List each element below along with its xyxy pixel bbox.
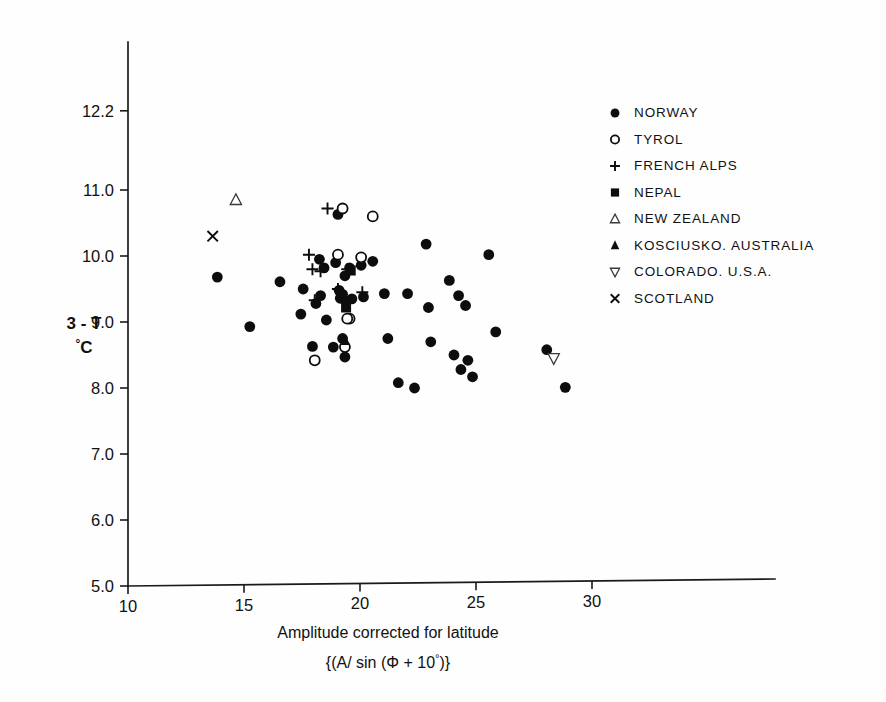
x-tick-label: 30 [583, 592, 601, 610]
x-axis-subtitle: {(A/ sin (Φ + 10°)} [326, 652, 451, 671]
legend-item[interactable]: NEW ZEALAND [610, 211, 741, 226]
legend-label: FRENCH ALPS [634, 158, 738, 173]
open-triangle-marker [230, 194, 241, 205]
open-circle-marker [342, 314, 352, 324]
open-circle-marker [368, 211, 378, 221]
plus-marker [610, 161, 620, 171]
plus-marker [322, 202, 334, 214]
filled-circle-marker [298, 284, 309, 295]
open-circle-marker [310, 355, 320, 365]
scatter-plot-figure: 1015202530 5.06.07.08.09.010.011.012.2 N… [0, 0, 886, 702]
open-triangle-marker [610, 214, 619, 223]
x-axis-title: Amplitude corrected for latitude [277, 624, 499, 641]
series-colorado-u-s-a [548, 354, 559, 365]
legend-item[interactable]: FRENCH ALPS [610, 158, 738, 173]
filled-circle-marker [307, 341, 318, 352]
filled-circle-marker [490, 327, 501, 338]
open-dtriangle-marker [610, 268, 619, 277]
open-circle-marker [356, 252, 366, 262]
open-circle-marker [338, 203, 348, 213]
filled-circle-marker [421, 239, 432, 250]
filled-circle-marker [453, 290, 464, 301]
filled-circle-marker [295, 309, 306, 320]
legend-label: SCOTLAND [634, 291, 715, 306]
filled-circle-marker [483, 249, 494, 260]
plus-marker [303, 249, 315, 261]
open-dtriangle-marker [548, 354, 559, 365]
series-norway [212, 209, 571, 393]
x-tick-label: 20 [351, 594, 369, 612]
filled-square-marker [346, 266, 356, 276]
filled-circle-marker [340, 352, 351, 363]
plot-canvas: 1015202530 5.06.07.08.09.010.011.012.2 N… [0, 0, 886, 702]
filled-circle-marker [402, 288, 413, 299]
filled-square-marker [611, 188, 619, 196]
y-axis-title-line1: 3 - T [67, 314, 103, 333]
legend: NORWAYTYROLFRENCH ALPSNEPALNEW ZEALANDKO… [610, 105, 814, 306]
filled-circle-marker [409, 383, 420, 394]
y-tick-label: 7.0 [91, 445, 114, 463]
filled-circle-marker [212, 272, 223, 283]
filled-circle-marker [425, 336, 436, 347]
filled-square-marker [341, 302, 351, 312]
legend-item[interactable]: COLORADO. U.S.A. [610, 264, 772, 279]
filled-circle-marker [449, 350, 460, 361]
filled-circle-marker [467, 371, 478, 382]
y-tick-label: 11.0 [83, 181, 114, 199]
series-scotland [207, 231, 217, 241]
y-tick-label: 10.0 [82, 247, 114, 265]
open-circle-marker [333, 250, 343, 260]
series-new-zealand [230, 194, 241, 205]
legend-item[interactable]: NEPAL [611, 185, 682, 200]
legend-item[interactable]: KOSCIUSKO. AUSTRALIA [611, 238, 814, 253]
filled-circle-marker [456, 364, 467, 375]
filled-circle-marker [367, 256, 378, 267]
filled-circle-marker [444, 275, 455, 286]
filled-circle-marker [611, 109, 620, 118]
x-tick-label: 10 [119, 597, 137, 615]
x-tick-label: 15 [235, 596, 253, 614]
x-tick-labels: 1015202530 [119, 592, 601, 615]
filled-circle-marker [244, 321, 255, 332]
filled-circle-marker [382, 333, 393, 344]
x-tick-label: 25 [467, 593, 485, 611]
filled-circle-marker [321, 315, 332, 326]
legend-item[interactable]: TYROL [611, 132, 684, 147]
legend-label: KOSCIUSKO. AUSTRALIA [634, 238, 814, 253]
y-axis-title-line2: °C [75, 337, 92, 357]
x-axis-line [128, 579, 775, 586]
legend-item[interactable]: SCOTLAND [611, 291, 715, 306]
filled-circle-marker [423, 302, 434, 313]
filled-circle-marker [275, 276, 286, 287]
legend-label: TYROL [634, 132, 684, 147]
filled-circle-marker [460, 300, 471, 311]
plus-marker [306, 263, 318, 275]
cross-marker [611, 294, 620, 303]
filled-circle-marker [379, 288, 390, 299]
legend-label: NEW ZEALAND [634, 211, 741, 226]
y-tick-label: 12.2 [82, 102, 114, 120]
filled-circle-marker [328, 342, 339, 353]
open-circle-marker [611, 135, 619, 143]
y-tick-label: 8.0 [91, 379, 114, 397]
cross-marker [207, 231, 217, 241]
filled-triangle-marker [611, 240, 620, 249]
y-tick-label: 6.0 [91, 511, 114, 529]
filled-circle-marker [393, 377, 404, 388]
filled-circle-marker [462, 355, 473, 366]
axis-titles: Amplitude corrected for latitude{(A/ sin… [67, 314, 499, 671]
legend-label: NORWAY [634, 105, 698, 120]
data-points [207, 194, 570, 394]
legend-item[interactable]: NORWAY [611, 105, 699, 120]
filled-circle-marker [560, 382, 571, 393]
y-tick-label: 5.0 [91, 577, 114, 595]
axes [128, 42, 775, 586]
axis-ticks [120, 111, 592, 594]
legend-label: COLORADO. U.S.A. [634, 264, 772, 279]
legend-label: NEPAL [634, 185, 682, 200]
